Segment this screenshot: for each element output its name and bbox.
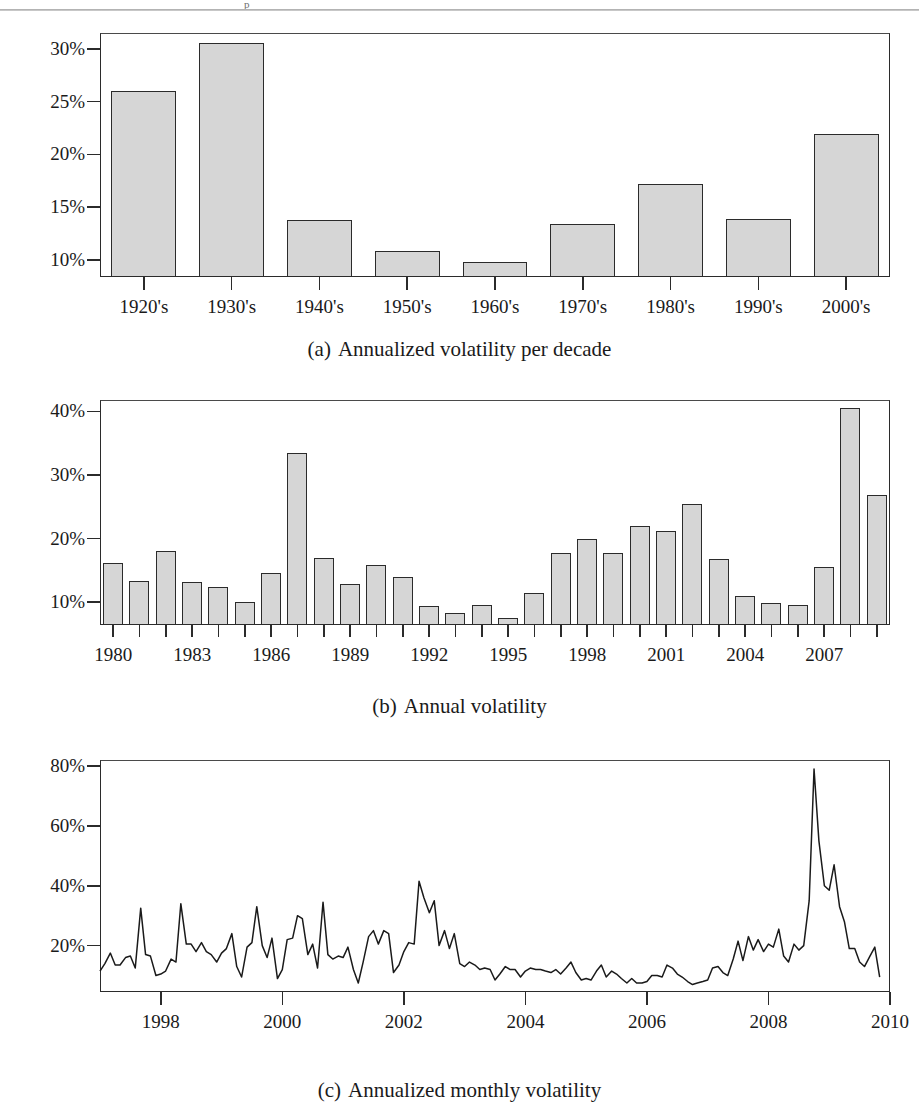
y-tick-mark bbox=[87, 206, 100, 208]
y-tick-label: 25% bbox=[15, 92, 85, 111]
x-tick-mark bbox=[297, 625, 299, 637]
bar bbox=[638, 184, 703, 277]
x-tick-mark bbox=[665, 625, 667, 637]
caption-b-text: Annual volatility bbox=[404, 694, 547, 718]
bar bbox=[709, 559, 729, 625]
x-tick-mark bbox=[160, 992, 162, 1005]
x-tick-label: 2002 bbox=[359, 1012, 449, 1031]
caption-a-label: (a) bbox=[308, 337, 331, 361]
bar bbox=[287, 453, 307, 625]
bar bbox=[656, 531, 676, 625]
bar bbox=[261, 573, 281, 625]
y-tick-label: 40% bbox=[15, 876, 85, 895]
x-tick-label: 2001 bbox=[621, 645, 711, 664]
y-tick-mark bbox=[87, 411, 100, 413]
y-tick-mark bbox=[87, 601, 100, 603]
y-tick-label: 30% bbox=[15, 465, 85, 484]
x-tick-mark bbox=[797, 625, 799, 637]
x-tick-mark bbox=[143, 277, 145, 290]
caption-c-text: Annualized monthly volatility bbox=[348, 1078, 601, 1102]
bar bbox=[726, 219, 791, 277]
bar bbox=[551, 553, 571, 625]
panel-a-annualized-volatility-per-decade: 10%15%20%25%30%1920's1930's1940's1950's1… bbox=[0, 0, 919, 375]
panel-b-annual-volatility: 10%20%30%40%1980198319861989199219951998… bbox=[0, 386, 919, 716]
x-tick-mark bbox=[139, 625, 141, 637]
y-tick-mark bbox=[87, 765, 100, 767]
x-tick-mark bbox=[376, 625, 378, 637]
y-tick-label: 10% bbox=[15, 250, 85, 269]
x-tick-label: 1995 bbox=[463, 645, 553, 664]
bar bbox=[419, 606, 439, 625]
bar bbox=[814, 134, 879, 277]
y-tick-label: 80% bbox=[15, 756, 85, 775]
x-tick-mark bbox=[670, 277, 672, 290]
x-tick-mark bbox=[692, 625, 694, 637]
caption-a-text: Annualized volatility per decade bbox=[338, 337, 611, 361]
x-tick-mark bbox=[586, 625, 588, 637]
bar bbox=[156, 551, 176, 625]
x-tick-label: 2007 bbox=[779, 645, 869, 664]
y-tick-mark bbox=[87, 885, 100, 887]
y-tick-label: 40% bbox=[15, 401, 85, 420]
x-tick-label: 1998 bbox=[116, 1012, 206, 1031]
bar bbox=[235, 602, 255, 625]
x-tick-label: 1992 bbox=[384, 645, 474, 664]
x-tick-mark bbox=[823, 625, 825, 637]
x-tick-label: 2006 bbox=[602, 1012, 692, 1031]
x-tick-mark bbox=[112, 625, 114, 637]
x-tick-label: 1983 bbox=[147, 645, 237, 664]
panel-c-frame bbox=[100, 760, 890, 992]
x-tick-mark bbox=[349, 625, 351, 637]
bar bbox=[463, 262, 528, 277]
x-tick-mark bbox=[639, 625, 641, 637]
bar bbox=[314, 558, 334, 625]
caption-c-label: (c) bbox=[318, 1078, 341, 1102]
bar bbox=[208, 587, 228, 625]
caption-c: (c)Annualized monthly volatility bbox=[0, 1078, 919, 1102]
x-tick-mark bbox=[613, 625, 615, 637]
bar bbox=[761, 603, 781, 625]
x-tick-mark bbox=[718, 625, 720, 637]
x-tick-mark bbox=[582, 277, 584, 290]
y-tick-mark bbox=[87, 538, 100, 540]
x-tick-mark bbox=[507, 625, 509, 637]
x-tick-mark bbox=[455, 625, 457, 637]
bar bbox=[199, 43, 264, 277]
bar bbox=[111, 91, 176, 277]
x-tick-mark bbox=[244, 625, 246, 637]
x-tick-mark bbox=[534, 625, 536, 637]
y-tick-mark bbox=[87, 474, 100, 476]
bar bbox=[788, 605, 808, 625]
bar bbox=[550, 224, 615, 277]
x-tick-mark bbox=[494, 277, 496, 290]
y-tick-label: 20% bbox=[15, 529, 85, 548]
x-tick-mark bbox=[282, 992, 284, 1005]
x-tick-mark bbox=[850, 625, 852, 637]
panel-c-annualized-monthly-volatility: 20%40%60%80%1998200020022004200620082010 bbox=[0, 748, 919, 1078]
caption-b-label: (b) bbox=[372, 694, 397, 718]
bar bbox=[840, 408, 860, 625]
x-tick-mark bbox=[319, 277, 321, 290]
y-tick-label: 20% bbox=[15, 144, 85, 163]
bar bbox=[498, 618, 518, 625]
bar bbox=[603, 553, 623, 625]
x-tick-mark bbox=[889, 992, 891, 1005]
bar bbox=[577, 539, 597, 625]
x-tick-mark bbox=[768, 992, 770, 1005]
bar bbox=[375, 251, 440, 277]
x-tick-mark bbox=[646, 992, 648, 1005]
y-tick-label: 30% bbox=[15, 39, 85, 58]
x-tick-label: 2000 bbox=[237, 1012, 327, 1031]
bar bbox=[814, 567, 834, 625]
bar bbox=[287, 220, 352, 277]
x-tick-mark bbox=[165, 625, 167, 637]
x-tick-mark bbox=[191, 625, 193, 637]
bar bbox=[445, 613, 465, 625]
y-tick-mark bbox=[87, 154, 100, 156]
x-tick-mark bbox=[403, 992, 405, 1005]
bar bbox=[393, 577, 413, 625]
y-tick-mark bbox=[87, 825, 100, 827]
y-tick-mark bbox=[87, 101, 100, 103]
bar bbox=[366, 565, 386, 625]
x-tick-label: 1980 bbox=[68, 645, 158, 664]
